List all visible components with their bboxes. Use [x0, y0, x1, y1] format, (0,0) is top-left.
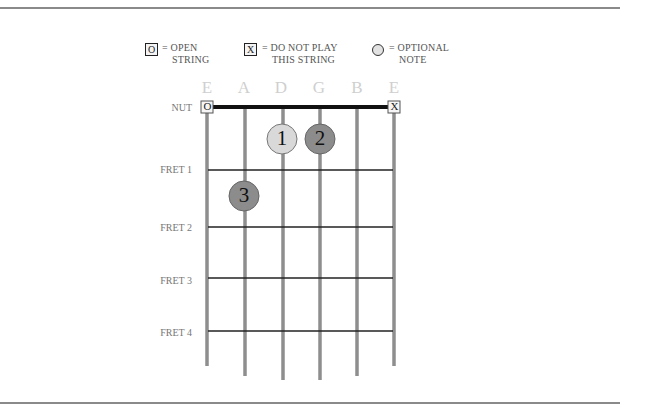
mute-string-marker-label: X: [388, 100, 401, 112]
strings: [207, 108, 394, 380]
finger-number-1: 1: [267, 126, 297, 151]
fretboard: [0, 0, 646, 405]
open-string-marker-label: O: [201, 100, 214, 112]
finger-number-3: 3: [229, 183, 259, 208]
finger-number-2: 2: [305, 126, 335, 151]
